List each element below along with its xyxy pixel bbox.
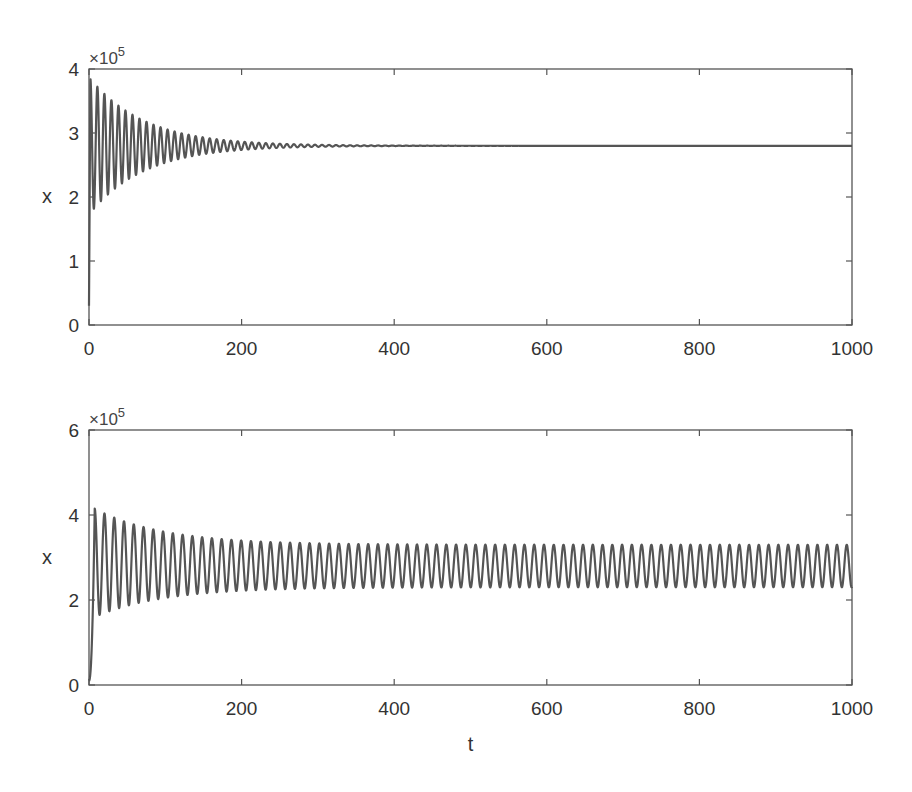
x-tick-label: 400 [378, 338, 410, 359]
bottom-y-multiplier: ×105 [89, 405, 125, 429]
top-axes-frame [89, 69, 852, 325]
x-tick-label: 1000 [831, 698, 873, 719]
x-tick-label: 800 [684, 338, 716, 359]
y-tick-label: 4 [68, 59, 79, 80]
x-tick-label: 200 [226, 698, 258, 719]
x-tick-label: 600 [531, 698, 563, 719]
y-tick-label: 1 [68, 251, 79, 272]
x-tick-label: 600 [531, 338, 563, 359]
x-tick-label: 200 [226, 338, 258, 359]
top-axis-ticks: 0200400600800100001234 [68, 59, 873, 359]
x-tick-label: 800 [684, 698, 716, 719]
x-tick-label: 1000 [831, 338, 873, 359]
x-tick-label: 0 [84, 698, 95, 719]
y-tick-label: 0 [68, 675, 79, 696]
bottom-y-axis-label: x [42, 546, 52, 568]
top-plot-line [89, 79, 852, 305]
bottom-plot-line [89, 509, 852, 681]
x-tick-label: 0 [84, 338, 95, 359]
y-tick-label: 0 [68, 315, 79, 336]
bottom-x-axis-label: t [468, 733, 474, 755]
y-tick-label: 3 [68, 123, 79, 144]
top-y-multiplier: ×105 [89, 44, 125, 68]
figure: 0200400600800100001234 x ×105 0200400600… [0, 0, 912, 792]
y-tick-label: 6 [68, 420, 79, 441]
y-tick-label: 2 [68, 187, 79, 208]
x-tick-label: 400 [378, 698, 410, 719]
bottom-subplot: 020040060080010000246 x t ×105 [42, 405, 873, 755]
y-tick-label: 4 [68, 505, 79, 526]
y-tick-label: 2 [68, 590, 79, 611]
top-subplot: 0200400600800100001234 x ×105 [42, 44, 873, 359]
top-y-axis-label: x [42, 185, 52, 207]
